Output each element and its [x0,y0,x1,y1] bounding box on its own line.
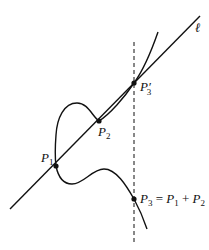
point-p1 [53,163,58,168]
point-p2 [96,118,101,123]
label-p1: P1 [40,150,53,167]
point-p3 [131,196,136,201]
line-label-l: ℓ [195,20,201,35]
label-p3-prime: P′3 [139,79,152,97]
label-p2: P2 [97,124,110,141]
secant-line-l [10,16,200,209]
label-p3-equation: P3 = P1 + P2 [139,191,205,208]
point-p3-prime [131,80,136,85]
elliptic-curve-diagram: ℓ P′3 P2 P1 P3 = P1 + P2 [0,0,209,250]
